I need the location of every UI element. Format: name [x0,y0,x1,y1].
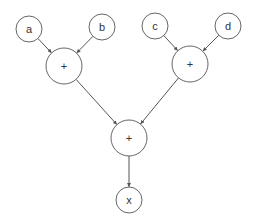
node-a: a [16,16,42,42]
node-plus3: + [111,120,147,156]
edge-d-to-plus2 [203,35,219,51]
edge-c-to-plus2 [164,36,178,51]
node-label: b [99,21,105,33]
node-label: d [225,20,231,32]
edge-plus2-to-plus3 [140,78,178,124]
node-label: c [152,20,158,32]
node-label: + [126,132,132,144]
node-c: c [142,13,168,39]
computation-graph: abcd+++x [0,0,253,221]
node-label: x [126,194,132,206]
node-plus2: + [172,46,208,82]
node-d: d [215,13,241,39]
node-b: b [89,14,115,40]
edge-a-to-plus1 [38,38,52,52]
node-label: + [187,58,193,70]
node-label: + [61,60,67,72]
edge-plus1-to-plus3 [76,79,117,124]
node-x: x [116,187,142,213]
edge-b-to-plus1 [77,36,93,53]
node-label: a [26,23,33,35]
node-plus1: + [46,48,82,84]
